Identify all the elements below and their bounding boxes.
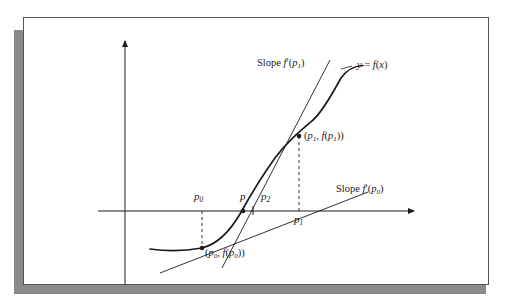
- point-p1-label: (p1, f(p1)): [304, 131, 344, 143]
- p2-label: p2: [261, 191, 270, 203]
- p0-label: p0: [194, 191, 203, 203]
- p-root-label: p: [240, 191, 246, 202]
- point-marker-root-p: [241, 209, 246, 214]
- curve-equation-label: y = f(x): [357, 60, 387, 71]
- tangent-line-p0: [160, 192, 368, 273]
- point-p0-label: (p0, f(p0)): [205, 248, 245, 260]
- figure-canvas: y = f(x) Slope f′(p1) Slope f′(p0) (p1, …: [0, 0, 507, 308]
- tangent-line-p1: [222, 60, 330, 268]
- function-curve: [150, 66, 363, 251]
- slope-p1-label: Slope f′(p1): [257, 58, 305, 70]
- slope-p0-label: Slope f′(p0): [336, 184, 384, 196]
- newton-method-plot: [0, 0, 507, 308]
- p1-label: p1: [294, 214, 303, 226]
- point-marker-p0-curve: [200, 246, 205, 251]
- point-marker-p1-curve: [297, 134, 302, 139]
